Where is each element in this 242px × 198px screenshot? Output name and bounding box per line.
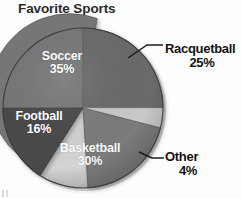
slice-label-other-name: Other <box>165 150 211 164</box>
slice-label-basketball-percent: 30% <box>44 155 136 168</box>
slice-label-football-percent: 16% <box>2 123 76 136</box>
slice-label-racquetball-name: Racquetball <box>165 42 239 56</box>
chart-canvas: Favorite Sports <box>0 0 242 198</box>
slice-label-basketball: Basketball 30% <box>44 142 136 168</box>
slice-label-soccer: Soccer 35% <box>27 50 97 76</box>
slice-label-other-percent: 4% <box>165 164 211 178</box>
scan-artifact <box>2 190 12 197</box>
slice-label-soccer-percent: 35% <box>27 63 97 76</box>
slice-label-racquetball-percent: 25% <box>165 56 239 70</box>
slice-label-football: Football 16% <box>2 110 76 136</box>
slice-label-other: Other 4% <box>165 150 211 179</box>
slice-label-racquetball: Racquetball 25% <box>165 42 239 71</box>
